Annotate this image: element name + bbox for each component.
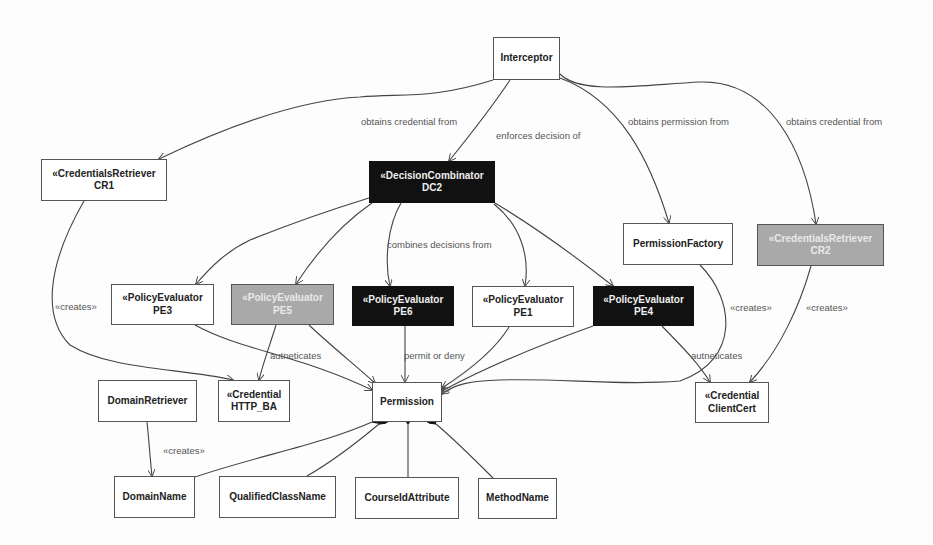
edge-dc2-pe5	[296, 203, 372, 284]
node-httpba[interactable]: «CredentialHTTP_BA	[218, 380, 290, 422]
uml-class-diagram: obtains credential fromenforces decision…	[0, 0, 933, 545]
edge-permission-domainname	[195, 422, 372, 477]
node-instance-name: CR2	[810, 245, 830, 258]
node-title: QualifiedClassName	[229, 491, 326, 504]
edge-label-obtains-permission-from: obtains permission from	[628, 117, 729, 127]
node-title: «PolicyEvaluator	[363, 294, 444, 307]
node-title: MethodName	[486, 492, 549, 505]
node-title: «PolicyEvaluator	[122, 292, 203, 305]
node-permission[interactable]: Permission	[372, 382, 442, 422]
node-instance-name: CR1	[94, 180, 114, 193]
node-title: CourseIdAttribute	[365, 492, 450, 505]
node-title: DomainName	[123, 491, 187, 504]
edge-dc2-pe1	[494, 204, 526, 286]
node-courseidattribute[interactable]: CourseIdAttribute	[355, 477, 459, 519]
node-title: «PolicyEvaluator	[603, 294, 684, 307]
edge-permission-qualifiedclassname	[307, 424, 379, 476]
edge-label-creates-pf-clientcert: «creates»	[730, 303, 772, 313]
edge-label-combines-decisions-from: combines decisions from	[387, 240, 492, 250]
node-pe5[interactable]: «PolicyEvaluatorPE5	[231, 284, 334, 325]
node-instance-name: DC2	[422, 182, 442, 195]
edge-label-obtains-credential-from-cr1: obtains credential from	[361, 117, 457, 127]
diagram-edges	[0, 0, 933, 545]
node-instance-name: HTTP_BA	[231, 401, 277, 414]
node-instance-name: PE5	[273, 305, 292, 318]
edge-cr2-clientcert	[750, 266, 811, 382]
edge-label-creates-cr1-httpba: «creates»	[55, 302, 97, 312]
edge-label-autneticates-pe5: autneticates	[270, 351, 321, 361]
edge-label-permit-or-deny: permit or deny	[404, 351, 465, 361]
node-qualifiedclassname[interactable]: QualifiedClassName	[219, 476, 336, 518]
node-instance-name: ClientCert	[708, 403, 756, 416]
node-cr2[interactable]: «CredentialsRetrieverCR2	[757, 224, 884, 266]
node-pe3[interactable]: «PolicyEvaluatorPE3	[111, 284, 214, 325]
node-pe4[interactable]: «PolicyEvaluatorPE4	[593, 286, 694, 326]
node-instance-name: PE1	[514, 307, 533, 320]
node-title: «PolicyEvaluator	[483, 294, 564, 307]
node-cr1[interactable]: «CredentialsRetrieverCR1	[41, 159, 167, 201]
node-title: «PolicyEvaluator	[242, 292, 323, 305]
node-title: «CredentialsRetriever	[52, 168, 155, 181]
node-pe1[interactable]: «PolicyEvaluatorPE1	[472, 286, 574, 327]
node-instance-name: PE3	[153, 305, 172, 318]
node-title: PermissionFactory	[633, 238, 723, 251]
node-title: «Credential	[705, 390, 759, 403]
node-title: Permission	[380, 396, 434, 409]
edge-label-creates-cr2-clientcert: «creates»	[806, 303, 848, 313]
node-clientcert[interactable]: «CredentialClientCert	[695, 382, 769, 423]
node-domainname[interactable]: DomainName	[114, 476, 195, 518]
node-title: «CredentialsRetriever	[769, 233, 872, 246]
node-interceptor[interactable]: Interceptor	[493, 37, 560, 80]
node-methodname[interactable]: MethodName	[478, 478, 557, 519]
node-title: «DecisionCombinator	[380, 170, 483, 183]
node-dc2[interactable]: «DecisionCombinatorDC2	[369, 161, 495, 203]
edge-dc2-pe3	[196, 198, 369, 284]
edge-permission-methodname	[436, 424, 493, 478]
node-pe6[interactable]: «PolicyEvaluatorPE6	[352, 286, 454, 326]
edge-label-creates-dr-dn: «creates»	[163, 446, 205, 456]
edge-interceptor-cr2	[560, 74, 816, 224]
edge-dc2-pe4	[495, 203, 613, 286]
edge-label-obtains-credential-from-cr2: obtains credential from	[786, 117, 882, 127]
node-title: Interceptor	[500, 52, 552, 65]
edge-interceptor-dc2	[449, 80, 510, 161]
node-title: DomainRetriever	[107, 395, 187, 408]
node-permissionfactory[interactable]: PermissionFactory	[623, 223, 733, 265]
edge-label-enforces-decision-of: enforces decision of	[496, 131, 581, 141]
node-instance-name: PE4	[634, 306, 653, 319]
edge-interceptor-permissionfactory	[560, 78, 669, 223]
node-instance-name: PE6	[394, 306, 413, 319]
edge-label-autneticates-pe4: autneticates	[691, 351, 742, 361]
edge-domainretriever-domainname	[147, 422, 152, 476]
node-domainretriever[interactable]: DomainRetriever	[98, 380, 197, 422]
node-title: «Credential	[227, 389, 281, 402]
